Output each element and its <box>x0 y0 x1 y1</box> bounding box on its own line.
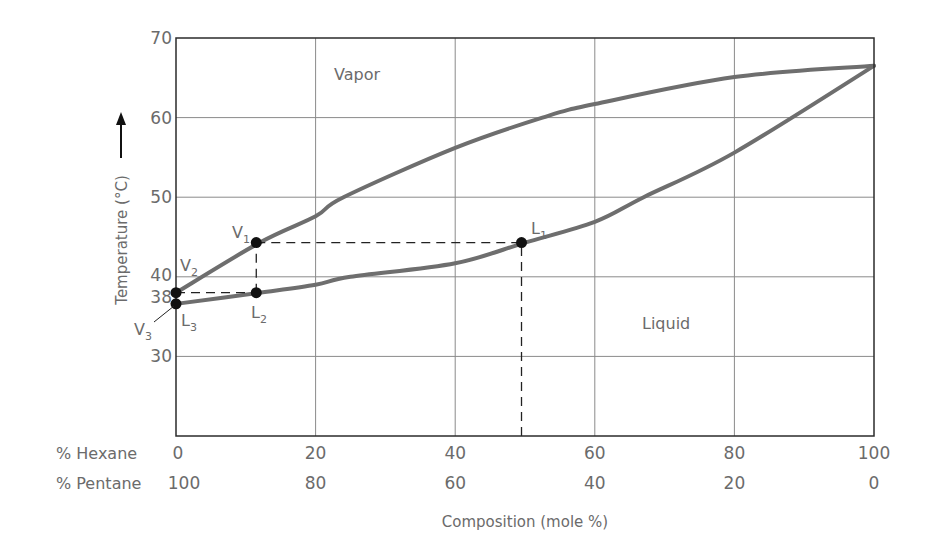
v3-pointer-line <box>154 306 174 322</box>
x-axis-title: Composition (mole %) <box>442 513 608 531</box>
y-tick-label: 38 <box>150 287 172 307</box>
point-label-v2: V2 <box>180 256 198 279</box>
hexane-row-label: % Hexane <box>56 444 137 463</box>
liquid-curve <box>176 66 874 304</box>
tie-lines <box>176 243 522 436</box>
arrow-up-icon <box>116 112 126 158</box>
state-point-v2 <box>171 287 182 298</box>
state-point-v1 <box>251 237 262 248</box>
point-label-l3: L3 <box>181 311 197 334</box>
y-tick-label: 30 <box>150 346 172 366</box>
phase-curves <box>176 66 874 304</box>
x-tick-pentane: 20 <box>724 473 746 493</box>
x-tick-pentane: 0 <box>869 473 880 493</box>
point-label-l2: L2 <box>251 303 267 326</box>
x-tick-hexane: 0 <box>173 443 184 463</box>
x-tick-pentane: 100 <box>168 473 200 493</box>
x-tick-hexane: 100 <box>858 443 890 463</box>
x-tick-hexane: 80 <box>724 443 746 463</box>
liquid-region-label: Liquid <box>642 314 690 333</box>
y-tick-label: 60 <box>150 108 172 128</box>
pentane-row-label: % Pentane <box>56 474 141 493</box>
x-tick-hexane: 20 <box>305 443 327 463</box>
grid-lines <box>176 38 874 436</box>
x-tick-pentane: 80 <box>305 473 327 493</box>
y-axis-title: Temperature (°C) <box>113 175 131 305</box>
plot-frame <box>176 38 874 436</box>
vapor-curve <box>176 66 874 293</box>
state-point-l2 <box>251 287 262 298</box>
x-tick-hexane: 40 <box>444 443 466 463</box>
y-tick-label: 40 <box>150 265 172 285</box>
phase-diagram-chart: 706050403830 020406080100100806040200 Va… <box>0 0 932 556</box>
x-tick-hexane: 60 <box>584 443 606 463</box>
x-tick-pentane: 40 <box>584 473 606 493</box>
x-axis-ticks: 020406080100100806040200 <box>168 443 890 493</box>
y-tick-label: 50 <box>150 187 172 207</box>
state-point-l1 <box>516 237 527 248</box>
point-label-v1: V1 <box>232 223 250 246</box>
point-label-v3: V3 <box>134 320 152 343</box>
vapor-region-label: Vapor <box>334 65 380 84</box>
x-tick-pentane: 60 <box>444 473 466 493</box>
y-tick-label: 70 <box>150 28 172 48</box>
